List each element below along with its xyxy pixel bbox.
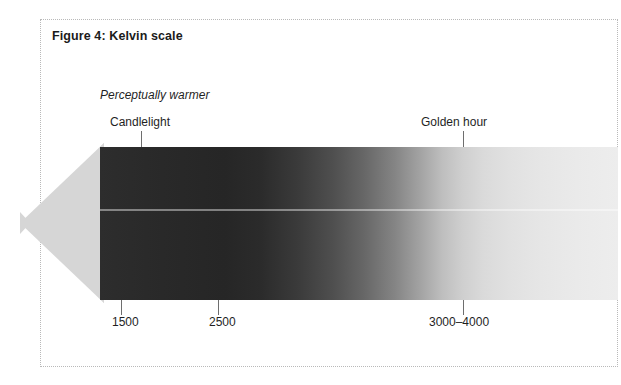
tick-golden-hour xyxy=(463,131,464,147)
left-arrow-icon xyxy=(18,143,104,303)
tick-candlelight xyxy=(141,131,142,147)
tick-3000-4000 xyxy=(463,300,464,315)
axis-label-1500: 1500 xyxy=(112,315,139,329)
bar-midline-divider xyxy=(100,209,618,211)
axis-label-2500: 2500 xyxy=(209,315,236,329)
figure-title: Figure 4: Kelvin scale xyxy=(52,29,183,43)
label-candlelight: Candlelight xyxy=(110,115,170,129)
perceptually-warmer-caption: Perceptually warmer xyxy=(100,88,209,102)
label-golden-hour: Golden hour xyxy=(421,115,487,129)
tick-1500 xyxy=(121,300,122,315)
kelvin-gradient-bar xyxy=(100,147,618,300)
tick-2500 xyxy=(218,300,219,315)
axis-label-3000-4000: 3000–4000 xyxy=(429,315,489,329)
kelvin-scale-figure: Figure 4: Kelvin scale Perceptually warm… xyxy=(0,0,621,385)
